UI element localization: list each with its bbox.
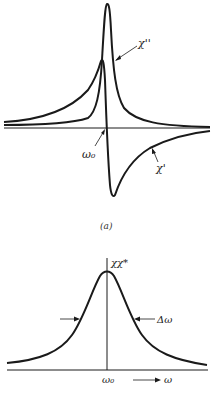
arrowhead-icon xyxy=(101,129,105,135)
arrowhead-icon xyxy=(115,55,121,61)
arrowhead-icon xyxy=(152,148,156,154)
chi-prime-label: χ' xyxy=(155,162,166,175)
omega-axis-label: ω xyxy=(164,374,172,385)
figure-a: χ'' χ' ω₀ (a) xyxy=(4,4,210,231)
linewidth-label: Δω xyxy=(156,314,172,325)
arrow-right-icon xyxy=(155,378,161,383)
figure-b: χχ* Δω ω₀ ω xyxy=(7,257,208,385)
figure-canvas: χ'' χ' ω₀ (a) χχ* Δω ω₀ ω xyxy=(0,0,219,410)
chi-chi-star-label: χχ* xyxy=(110,257,128,268)
chi-double-prime-label: χ'' xyxy=(137,37,151,50)
omega0-label-b: ω₀ xyxy=(102,374,114,385)
omega0-label-a: ω₀ xyxy=(82,148,96,161)
figure-a-caption: (a) xyxy=(100,221,113,231)
